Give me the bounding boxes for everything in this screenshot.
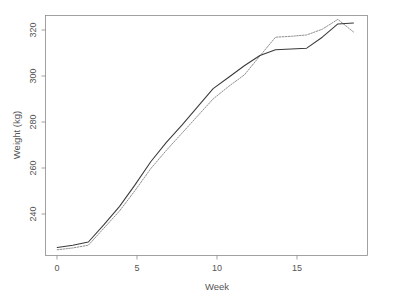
plot-frame xyxy=(46,16,368,256)
y-tick-label-280: 280 xyxy=(28,114,38,129)
y-axis-ticks xyxy=(42,30,46,214)
y-tick-label-300: 300 xyxy=(28,68,38,83)
x-tick-label-15: 15 xyxy=(292,263,302,273)
y-tick-label-320: 320 xyxy=(28,22,38,37)
x-tick-label-0: 0 xyxy=(54,263,59,273)
y-tick-label-240: 240 xyxy=(28,206,38,221)
y-tick-label-260: 260 xyxy=(28,160,38,175)
y-axis-title: Weight (kg) xyxy=(11,111,22,159)
x-axis-ticks xyxy=(57,256,297,260)
x-tick-label-5: 5 xyxy=(134,263,139,273)
y-axis-tick-labels: 320 300 280 260 240 xyxy=(28,22,38,221)
x-axis-title: Week xyxy=(205,281,229,292)
x-tick-label-10: 10 xyxy=(212,263,222,273)
data-line-solid xyxy=(57,23,353,247)
chart-container: 320 300 280 260 240 Weight (kg) 0 5 10 1… xyxy=(0,0,395,301)
data-line-dotted xyxy=(57,19,353,249)
line-chart: 320 300 280 260 240 Weight (kg) 0 5 10 1… xyxy=(0,0,395,301)
x-axis-tick-labels: 0 5 10 15 xyxy=(54,263,302,273)
